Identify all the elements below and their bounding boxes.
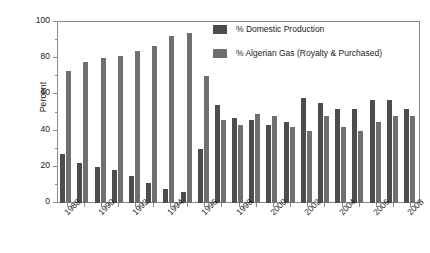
bar xyxy=(301,98,306,203)
x-tick-mark xyxy=(393,203,394,207)
bar-group xyxy=(129,22,144,203)
bar xyxy=(290,127,295,203)
x-tick-mark xyxy=(221,203,222,207)
x-tick-mark xyxy=(187,203,188,207)
bar xyxy=(272,116,277,203)
bar xyxy=(335,109,340,203)
bar xyxy=(129,176,134,203)
x-tick-mark xyxy=(324,203,325,207)
bar xyxy=(352,109,357,203)
bar xyxy=(307,131,312,203)
x-tick-mark xyxy=(256,203,257,207)
bar xyxy=(324,116,329,203)
bar xyxy=(370,100,375,203)
bar-chart: Percent 020406080100 1988199019921994199… xyxy=(0,0,430,253)
bar xyxy=(95,167,100,203)
bar-group xyxy=(95,22,110,203)
bar xyxy=(393,116,398,203)
bar xyxy=(215,105,220,203)
legend-item: % Algerian Gas (Royalty & Purchased) xyxy=(213,48,418,58)
bar xyxy=(152,46,157,203)
bar xyxy=(404,109,409,203)
bar xyxy=(77,163,82,203)
bar xyxy=(221,120,226,203)
legend-label: % Domestic Production xyxy=(236,24,324,34)
bar xyxy=(118,56,123,203)
bar xyxy=(204,76,209,203)
bar xyxy=(284,122,289,203)
bar xyxy=(249,120,254,203)
bar xyxy=(387,100,392,203)
x-tick-mark xyxy=(153,203,154,207)
x-tick-mark xyxy=(84,203,85,207)
bar-group xyxy=(198,22,213,203)
bar xyxy=(66,71,71,203)
legend-label: % Algerian Gas (Royalty & Purchased) xyxy=(236,48,382,58)
bar xyxy=(255,114,260,203)
bar-group xyxy=(163,22,178,203)
x-tick-mark xyxy=(118,203,119,207)
bar xyxy=(358,131,363,203)
y-tick-label: 100 xyxy=(36,15,50,25)
bar xyxy=(266,125,271,203)
x-tick-mark xyxy=(290,203,291,207)
bar xyxy=(163,189,168,203)
bar xyxy=(232,118,237,203)
bar-group xyxy=(146,22,161,203)
x-tick-mark xyxy=(359,203,360,207)
bar xyxy=(238,125,243,203)
y-tick-label: 0 xyxy=(45,196,50,206)
legend-swatch xyxy=(213,49,227,58)
chart-legend: % Domestic Production% Algerian Gas (Roy… xyxy=(213,24,418,72)
y-tick-label: 40 xyxy=(41,124,50,134)
bar-group xyxy=(77,22,92,203)
bar xyxy=(341,127,346,203)
bar xyxy=(135,51,140,203)
bar xyxy=(101,58,106,203)
bar xyxy=(187,33,192,203)
y-tick-label: 80 xyxy=(41,51,50,61)
bar xyxy=(60,154,65,203)
bar xyxy=(112,170,117,203)
bar xyxy=(318,103,323,203)
bar xyxy=(169,36,174,203)
legend-item: % Domestic Production xyxy=(213,24,418,34)
bar xyxy=(198,149,203,203)
bar-group xyxy=(60,22,75,203)
bar-group xyxy=(181,22,196,203)
y-tick-label: 60 xyxy=(41,87,50,97)
bar-group xyxy=(112,22,127,203)
legend-swatch xyxy=(213,25,227,34)
bar xyxy=(376,122,381,203)
y-tick-label: 20 xyxy=(41,160,50,170)
bar xyxy=(83,62,88,203)
bar xyxy=(410,116,415,203)
